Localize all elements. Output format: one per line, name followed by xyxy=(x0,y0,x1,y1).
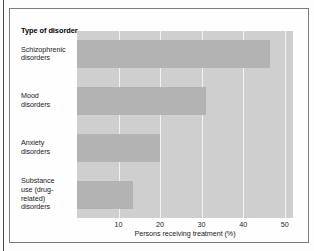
bar xyxy=(77,40,270,68)
x-tick-label: 30 xyxy=(190,220,214,229)
category-label-line: disorders xyxy=(21,101,79,110)
category-label: Anxietydisorders xyxy=(21,139,79,157)
x-tick-label: 10 xyxy=(107,220,131,229)
bar xyxy=(77,87,206,115)
x-tick-label: 20 xyxy=(148,220,172,229)
x-tick-label: 40 xyxy=(231,220,255,229)
gridline-50 xyxy=(285,31,286,218)
plot-area xyxy=(77,31,293,218)
category-axis-heading: Type of disorder xyxy=(21,27,79,36)
category-label-line: disorders xyxy=(21,203,79,212)
category-label: Substanceuse (drug-related)disorders xyxy=(21,177,79,212)
figure-frame: Type of disorder SchizophrenicdisordersM… xyxy=(0,0,314,251)
category-label-line: disorders xyxy=(21,54,79,63)
category-label: Mooddisorders xyxy=(21,92,79,110)
x-tick-label: 50 xyxy=(273,220,297,229)
category-label-line: disorders xyxy=(21,148,79,157)
page-edge-rule xyxy=(3,0,4,251)
category-axis: Type of disorder SchizophrenicdisordersM… xyxy=(21,27,79,223)
bar xyxy=(77,181,133,209)
bar xyxy=(77,134,160,162)
category-label: Schizophrenicdisorders xyxy=(21,46,79,64)
x-axis-title: Persons receiving treatment (%) xyxy=(77,229,293,238)
